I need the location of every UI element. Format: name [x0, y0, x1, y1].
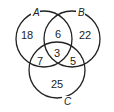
- set-c-label: C: [64, 96, 72, 107]
- region-a-only: 18: [21, 29, 33, 41]
- set-b-label: B: [78, 7, 85, 18]
- venn-diagram: A B C 18 6 22 3 7 5 25: [0, 0, 114, 112]
- region-c-only: 25: [51, 78, 63, 90]
- region-ab-only: 6: [55, 28, 61, 40]
- region-abc: 3: [54, 47, 60, 59]
- region-ac-only: 7: [37, 55, 43, 67]
- region-bc-only: 5: [70, 55, 76, 67]
- set-a-label: A: [32, 7, 40, 18]
- region-b-only: 22: [79, 29, 91, 41]
